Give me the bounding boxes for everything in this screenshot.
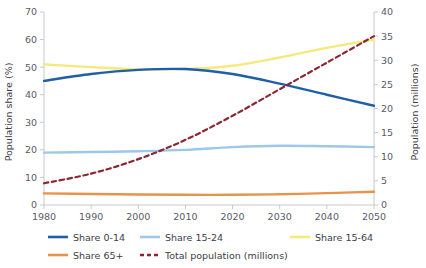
- legend-item-share-15-24[interactable]: Share 15-24: [140, 232, 223, 243]
- y-axis-right-title: Population (millions): [409, 64, 420, 161]
- series-lines: [44, 36, 374, 195]
- series-line-share-0-14: [44, 69, 374, 106]
- legend-item-share-0-14[interactable]: Share 0-14: [48, 232, 125, 243]
- legend-item-total-population-millions-label: Total population (millions): [164, 250, 288, 261]
- x-axis-tick-label: 2000: [126, 211, 150, 222]
- y-axis-left-tick-label: 30: [25, 117, 37, 128]
- y-axis-left-tick-label: 60: [25, 34, 37, 45]
- y-axis-left-tick-label: 70: [25, 6, 37, 17]
- y-axis-left-title: Population share (%): [3, 63, 14, 162]
- x-axis-tick-label: 2050: [362, 211, 386, 222]
- legend-item-total-population-millions[interactable]: Total population (millions): [140, 250, 288, 261]
- legend-item-share-15-24-label: Share 15-24: [165, 232, 223, 243]
- legend-item-share-65-label: Share 65+: [73, 250, 123, 261]
- x-axis-tick-label: 2030: [268, 211, 292, 222]
- chart-legend: Share 0-14Share 15-24Share 15-64Share 65…: [48, 232, 373, 261]
- y-axis-right-tick-label: 35: [381, 31, 393, 42]
- y-axis-right-tick-label: 10: [381, 151, 393, 162]
- x-axis-tick-label: 2020: [220, 211, 244, 222]
- y-axis-right-tick-label: 40: [381, 6, 393, 17]
- legend-item-share-65[interactable]: Share 65+: [48, 250, 123, 261]
- x-axis-tick-label: 2040: [315, 211, 339, 222]
- y-axis-left-tick-label: 50: [25, 62, 37, 73]
- chart-container: 010203040506070 0510152025303540 1980199…: [0, 0, 426, 268]
- y-axis-left-tick-label: 0: [31, 199, 37, 210]
- y-axis-right: 0510152025303540: [374, 6, 393, 210]
- series-line-share-65: [44, 192, 374, 195]
- legend-item-share-15-64[interactable]: Share 15-64: [290, 232, 373, 243]
- y-axis-right-tick-label: 15: [381, 127, 393, 138]
- legend-item-share-15-64-label: Share 15-64: [315, 232, 373, 243]
- y-axis-right-tick-label: 5: [381, 175, 387, 186]
- x-axis-tick-label: 1980: [32, 211, 56, 222]
- y-axis-right-tick-label: 0: [381, 199, 387, 210]
- series-line-total-population-millions: [44, 36, 374, 183]
- y-axis-right-tick-label: 20: [381, 103, 393, 114]
- y-axis-right-tick-label: 25: [381, 79, 393, 90]
- y-axis-left-tick-label: 40: [25, 89, 37, 100]
- population-share-line-chart: 010203040506070 0510152025303540 1980199…: [0, 0, 426, 268]
- legend-item-share-0-14-label: Share 0-14: [73, 232, 125, 243]
- x-axis-tick-label: 2010: [173, 211, 197, 222]
- x-axis-tick-label: 1990: [79, 211, 103, 222]
- y-axis-right-tick-label: 30: [381, 55, 393, 66]
- y-axis-left-tick-label: 20: [25, 144, 37, 155]
- x-axis: 19801990200020102020203020402050: [32, 205, 386, 222]
- series-line-share-15-24: [44, 146, 374, 153]
- y-axis-left-tick-label: 10: [25, 172, 37, 183]
- y-axis-left: 010203040506070: [25, 6, 44, 210]
